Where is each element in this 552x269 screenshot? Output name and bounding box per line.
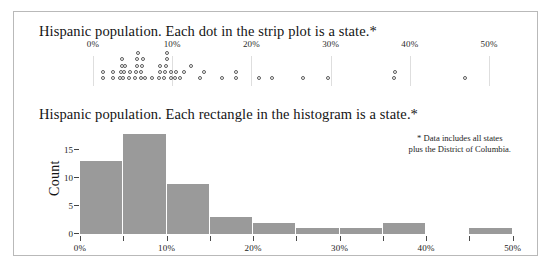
histogram-x-tick	[340, 236, 341, 241]
histogram-bar	[469, 228, 512, 234]
histogram-x-tick-label: 50%	[504, 243, 521, 253]
strip-dot	[120, 57, 124, 61]
strip-dot	[111, 70, 115, 74]
strip-x-tick-label: 30%	[322, 39, 339, 49]
strip-gridline	[93, 56, 94, 86]
strip-dot	[136, 51, 140, 55]
histogram-bar	[253, 223, 296, 234]
strip-dot	[139, 70, 143, 74]
strip-gridline	[331, 56, 332, 86]
strip-gridline	[489, 56, 490, 86]
histogram-y-tick-label: 15	[64, 145, 73, 155]
strip-dot	[463, 76, 467, 80]
strip-dot	[111, 76, 115, 80]
histogram-y-tick	[74, 233, 79, 234]
histogram-x-tick	[469, 236, 470, 241]
histogram-y-tick	[74, 177, 79, 178]
histogram-panel: Hispanic population. Each rectangle in t…	[14, 100, 539, 257]
histogram-y-tick-label: 10	[64, 173, 73, 183]
strip-x-tick-label: 40%	[401, 39, 418, 49]
strip-dot	[127, 76, 131, 80]
strip-dot	[140, 64, 144, 68]
histogram-x-tick	[123, 236, 124, 241]
strip-dot	[101, 70, 105, 74]
histogram-bar	[296, 228, 339, 234]
strip-plot-title: Hispanic population. Each dot in the str…	[39, 23, 377, 40]
histogram-x-tick	[80, 236, 81, 241]
strip-dot	[189, 64, 193, 68]
strip-dot	[158, 70, 162, 74]
figure-frame: Hispanic population. Each dot in the str…	[13, 11, 538, 256]
strip-dot	[157, 76, 161, 80]
histogram-y-axis-title: Count	[47, 160, 63, 196]
histogram-y-tick-label: 0	[69, 229, 74, 239]
strip-dot	[392, 76, 396, 80]
strip-dot	[143, 76, 147, 80]
strip-dot	[234, 76, 238, 80]
histogram-bar	[340, 228, 383, 234]
histogram-x-tick-label: 20%	[245, 243, 262, 253]
histogram-x-tick-label: 0%	[74, 243, 86, 253]
strip-dot	[220, 76, 224, 80]
histogram-x-tick	[210, 236, 211, 241]
histogram-title: Hispanic population. Each rectangle in t…	[39, 106, 418, 123]
histogram-bar	[80, 161, 123, 234]
histogram-x-tick	[296, 236, 297, 241]
strip-dot	[234, 70, 238, 74]
strip-dot	[141, 57, 145, 61]
strip-dot	[134, 70, 138, 74]
strip-dot	[182, 70, 186, 74]
histogram-y-tick	[74, 205, 79, 206]
strip-gridline	[410, 56, 411, 86]
histogram-x-tick	[383, 236, 384, 241]
histogram-x-tick-label: 10%	[158, 243, 175, 253]
strip-dot	[202, 70, 206, 74]
strip-dot	[169, 76, 173, 80]
strip-dot	[257, 76, 261, 80]
histogram-x-tick-label: 40%	[418, 243, 435, 253]
strip-dot	[393, 70, 397, 74]
strip-dot	[165, 51, 169, 55]
strip-dot	[162, 76, 166, 80]
strip-dot	[133, 76, 137, 80]
histogram-x-tick	[253, 236, 254, 241]
strip-dot	[122, 70, 126, 74]
strip-dot	[174, 70, 178, 74]
strip-dot	[165, 57, 169, 61]
strip-dot	[150, 76, 154, 80]
strip-dot	[101, 76, 105, 80]
histogram-x-tick	[513, 236, 514, 241]
strip-dot	[121, 76, 125, 80]
histogram-x-tick-label: 30%	[331, 243, 348, 253]
strip-plot-area: 0%10%20%30%40%50%	[93, 56, 505, 86]
strip-dot	[301, 76, 305, 80]
strip-dot	[163, 70, 167, 74]
histogram-bar	[383, 223, 426, 234]
strip-dot	[128, 70, 132, 74]
strip-dot	[135, 64, 139, 68]
strip-dot	[123, 64, 127, 68]
histogram-x-tick	[167, 236, 168, 241]
strip-dot	[164, 64, 168, 68]
strip-x-tick-label: 10%	[164, 39, 181, 49]
histogram-y-tick-label: 5	[69, 201, 74, 211]
strip-dot	[270, 76, 274, 80]
strip-x-tick-label: 20%	[243, 39, 260, 49]
strip-dot	[135, 57, 139, 61]
strip-dot	[326, 76, 330, 80]
strip-x-tick-label: 50%	[481, 39, 498, 49]
strip-dot	[173, 76, 177, 80]
strip-plot-panel: Hispanic population. Each dot in the str…	[14, 12, 539, 100]
strip-dot	[198, 76, 202, 80]
histogram-bar	[123, 134, 166, 234]
histogram-plot-area: 0510150%10%20%30%40%50%	[80, 128, 530, 234]
histogram-bar	[167, 184, 210, 234]
histogram-bar	[210, 217, 253, 234]
strip-gridline	[251, 56, 252, 86]
strip-dot	[178, 76, 182, 80]
strip-x-tick-label: 0%	[87, 39, 99, 49]
strip-dot	[139, 76, 143, 80]
histogram-y-tick	[74, 149, 79, 150]
histogram-x-tick	[426, 236, 427, 241]
strip-dot	[158, 64, 162, 68]
